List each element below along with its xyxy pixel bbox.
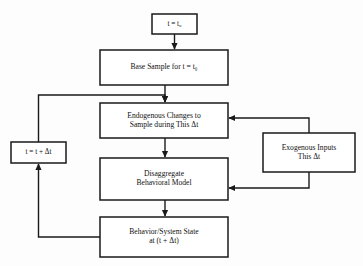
endogenous-changes-box (100, 103, 228, 138)
flowchart-canvas (0, 0, 363, 266)
flowchart-diagram: t = t₀ Base Sample for t = t₀ Endogenous… (0, 0, 363, 266)
behavior-system-state-box (100, 217, 228, 257)
edge-exogenous-to-disaggregate (229, 172, 309, 188)
time-increment-box (11, 142, 66, 163)
disaggregate-behavioral-model-box (100, 158, 228, 200)
exogenous-inputs-box (263, 133, 355, 172)
edge-exogenous-to-endogenous (229, 118, 309, 133)
edge-behavior-to-time-increment (39, 164, 101, 237)
node-box-group (11, 14, 355, 257)
base-sample-box (100, 50, 228, 85)
initial-time-box (152, 14, 197, 34)
